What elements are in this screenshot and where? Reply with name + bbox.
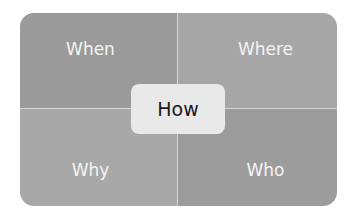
quadrant-label: Why (72, 160, 110, 180)
quadrant-label: When (66, 39, 115, 59)
center-label: How (157, 98, 198, 120)
quadrant-label: Where (238, 39, 293, 59)
center-how-box: How (131, 84, 225, 134)
quadrant-label: Who (247, 160, 285, 180)
